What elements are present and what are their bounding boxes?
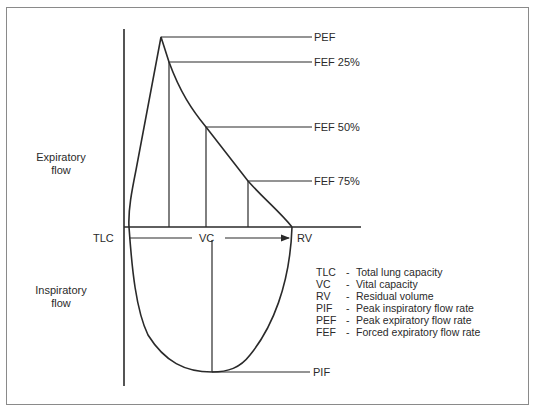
pif-label: PIF: [313, 366, 330, 379]
expiratory-curve: [129, 37, 292, 227]
vc-label: VC: [199, 232, 214, 245]
legend-item: VC-Vital capacity: [316, 278, 480, 290]
legend-item: RV-Residual volume: [316, 290, 480, 302]
fef25-label: FEF 25%: [314, 56, 360, 69]
legend-item: TLC-Total lung capacity: [316, 266, 480, 278]
inspiratory-curve: [129, 227, 292, 372]
flow-volume-diagram: [0, 0, 537, 413]
rv-label: RV: [297, 232, 312, 245]
inspiratory-flow-label: Inspiratory flow: [16, 284, 106, 310]
tlc-label: TLC: [93, 232, 114, 245]
fef75-label: FEF 75%: [314, 175, 360, 188]
fef50-label: FEF 50%: [314, 121, 360, 134]
legend-item: FEF-Forced expiratory flow rate: [316, 326, 480, 338]
legend-item: PEF-Peak expiratory flow rate: [316, 314, 480, 326]
legend-item: PIF-Peak inspiratory flow rate: [316, 302, 480, 314]
abbreviation-legend: TLC-Total lung capacity VC-Vital capacit…: [316, 266, 480, 338]
expiratory-flow-label: Expiratory flow: [16, 151, 106, 177]
pef-label: PEF: [314, 31, 335, 44]
